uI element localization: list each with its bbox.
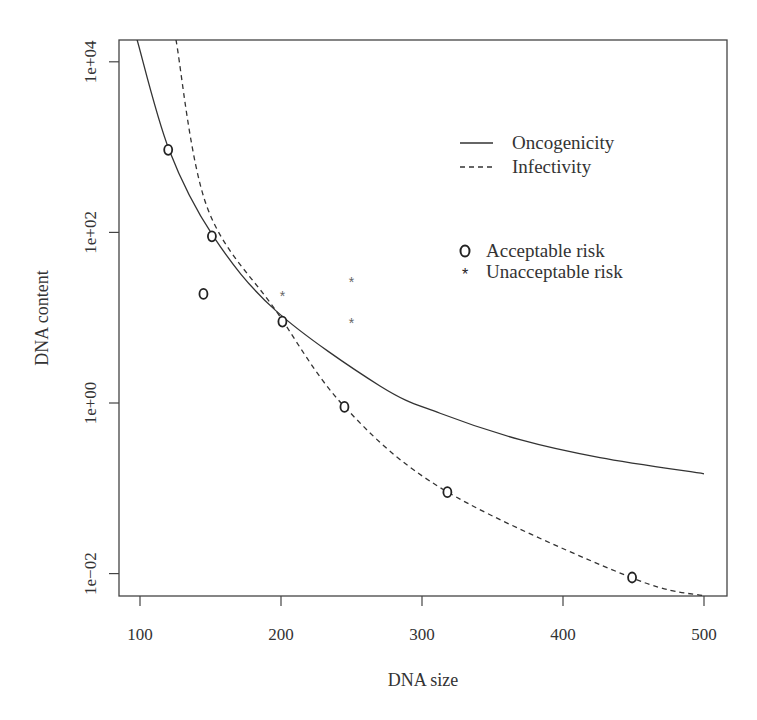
acceptable-risk-point (199, 289, 207, 299)
unacceptable-risk-point: * (280, 288, 286, 304)
x-tick-label: 200 (268, 625, 294, 644)
x-axis: 100200300400500 (127, 596, 717, 644)
y-tick-label: 1e+02 (81, 211, 100, 254)
acceptable-risk-point (208, 231, 216, 241)
unacceptable-risk-point: * (349, 274, 355, 290)
acceptable-risk-point (278, 317, 286, 327)
x-tick-label: 100 (127, 625, 153, 644)
acceptable-risk-point (443, 487, 451, 497)
series-infectivity-line (176, 40, 704, 596)
unacceptable-risk-point: * (349, 315, 355, 331)
y-axis: 1e−021e+001e+021e+04 (81, 40, 119, 595)
plot-area: *** (137, 40, 704, 596)
y-tick-label: 1e+04 (81, 40, 100, 83)
y-tick-label: 1e−02 (81, 552, 100, 595)
x-tick-label: 500 (691, 625, 717, 644)
legend-label-acceptable-risk: Acceptable risk (486, 240, 605, 261)
series-oncogenicity-line (137, 40, 704, 474)
legend-circle-marker-icon (461, 246, 470, 257)
x-tick-label: 300 (409, 625, 435, 644)
plot-frame (119, 40, 727, 596)
acceptable-risk-point (628, 573, 636, 583)
y-axis-title: DNA content (32, 270, 52, 365)
legend-star-marker-icon: * (462, 266, 468, 283)
legend-label-infectivity: Infectivity (512, 156, 592, 177)
x-tick-label: 400 (550, 625, 576, 644)
acceptable-risk-point (340, 402, 348, 412)
acceptable-risk-point (164, 145, 172, 155)
legend-label-unacceptable-risk: Unacceptable risk (486, 261, 623, 282)
y-tick-label: 1e+00 (81, 382, 100, 425)
risk-chart: *** 100200300400500 1e−021e+001e+021e+04… (0, 0, 757, 720)
legend: Oncogenicity Infectivity Acceptable risk… (460, 132, 623, 283)
legend-label-oncogenicity: Oncogenicity (512, 132, 615, 153)
x-axis-title: DNA size (388, 670, 459, 690)
